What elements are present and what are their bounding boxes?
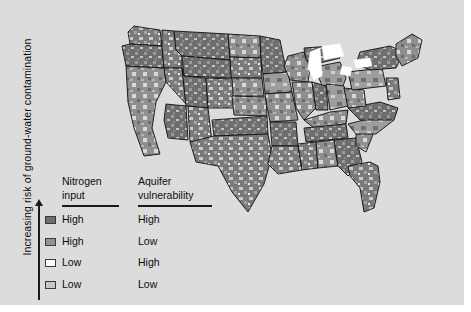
legend-nitrogen-value: Low <box>62 255 81 269</box>
y-axis-label: Increasing risk of ground-water contamin… <box>16 2 38 292</box>
legend-aquifer-value: Low <box>138 277 157 291</box>
legend-col2-line2: vulnerability <box>138 188 218 202</box>
legend-column-header-nitrogen: Nitrogen input <box>62 174 124 202</box>
legend-column-header-aquifer: Aquifer vulnerability <box>138 174 218 202</box>
legend-aquifer-value: High <box>138 212 160 226</box>
us-choropleth-map <box>108 16 460 244</box>
map-svg <box>108 16 460 244</box>
legend-rule-aquifer <box>138 205 212 207</box>
legend-aquifer-value: Low <box>138 234 157 248</box>
legend-nitrogen-value: High <box>62 234 84 248</box>
figure-panel: Increasing risk of ground-water contamin… <box>0 0 464 305</box>
legend-row: High Low <box>45 233 215 255</box>
legend-nitrogen-value: High <box>62 212 84 226</box>
legend: Nitrogen input Aquifer vulnerability Hig… <box>45 174 215 204</box>
legend-swatch <box>45 216 56 224</box>
axis-arrow-line <box>38 204 40 300</box>
legend-swatch <box>45 238 56 246</box>
legend-header: Nitrogen input Aquifer vulnerability <box>45 174 215 204</box>
legend-rows: High High High Low Low High Low Low <box>45 211 215 297</box>
legend-nitrogen-value: Low <box>62 277 81 291</box>
legend-swatch <box>45 259 56 267</box>
legend-col1-line1: Nitrogen <box>62 174 124 188</box>
legend-col1-line2: input <box>62 188 124 202</box>
legend-row: Low Low <box>45 276 215 298</box>
legend-aquifer-value: High <box>138 255 160 269</box>
legend-row: High High <box>45 211 215 233</box>
legend-row: Low High <box>45 254 215 276</box>
legend-swatch <box>45 281 56 289</box>
legend-col2-line1: Aquifer <box>138 174 218 188</box>
legend-rule-nitrogen <box>62 205 119 207</box>
